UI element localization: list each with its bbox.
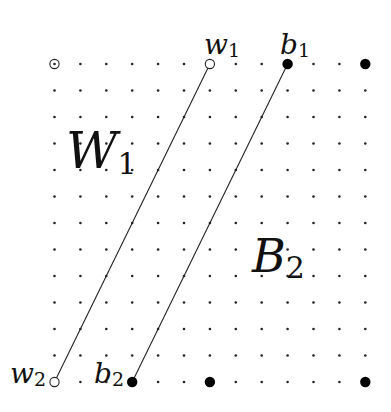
grid-dot — [131, 354, 134, 357]
grid-dot — [131, 63, 134, 66]
grid-dot — [53, 301, 56, 304]
grid-dot — [260, 169, 263, 172]
grid-dot — [105, 116, 108, 119]
grid-dot — [286, 169, 289, 172]
grid-dot — [235, 142, 238, 145]
grid-dot — [183, 63, 186, 66]
grid-dot — [79, 354, 82, 357]
grid-dot — [131, 328, 134, 331]
grid-dot — [364, 116, 367, 119]
grid-dot — [183, 142, 186, 145]
grid-dot — [105, 222, 108, 225]
grid-dot — [338, 248, 341, 251]
grid-dot — [209, 195, 212, 198]
grid-dot — [235, 195, 238, 198]
grid-dot — [260, 381, 263, 384]
grid-dot — [105, 248, 108, 251]
grid-dot — [131, 248, 134, 251]
grid-dot — [312, 116, 315, 119]
grid-dot — [286, 222, 289, 225]
edges — [55, 64, 288, 382]
grid-dot — [79, 248, 82, 251]
grid-dot — [364, 248, 367, 251]
grid-dot — [209, 89, 212, 92]
grid-dot — [53, 89, 56, 92]
grid-dot — [183, 222, 186, 225]
grid-dot — [105, 63, 108, 66]
grid-dot — [235, 381, 238, 384]
grid-dot — [157, 116, 160, 119]
grid-dot — [312, 169, 315, 172]
grid-dot — [79, 301, 82, 304]
grid-dot — [235, 275, 238, 278]
grid-dot — [209, 328, 212, 331]
grid-dot — [338, 301, 341, 304]
grid-dot — [183, 195, 186, 198]
grid-dot — [131, 195, 134, 198]
grid-dot — [364, 354, 367, 357]
center-dot — [53, 63, 56, 66]
grid-dot — [157, 354, 160, 357]
filled-vertex-b2 — [127, 377, 137, 387]
grid-dot — [235, 328, 238, 331]
grid-dot — [209, 275, 212, 278]
grid-dot — [312, 328, 315, 331]
grid-dot — [131, 301, 134, 304]
grid-dot — [364, 142, 367, 145]
grid-dot — [260, 63, 263, 66]
grid-dot — [312, 301, 315, 304]
grid-dot — [209, 248, 212, 251]
grid-dot — [183, 89, 186, 92]
grid-dot — [183, 301, 186, 304]
grid-dot — [131, 142, 134, 145]
grid-dot — [338, 381, 341, 384]
grid-dot — [312, 142, 315, 145]
grid-dot — [260, 301, 263, 304]
grid-dot — [209, 354, 212, 357]
grid-dot — [235, 301, 238, 304]
region-label-B2: B2 — [251, 229, 305, 285]
filled-vertex-top-right-filled — [360, 59, 370, 69]
grid-dot — [235, 222, 238, 225]
label-w1: w1 — [204, 28, 240, 61]
grid-dot — [286, 89, 289, 92]
grid-dot — [286, 301, 289, 304]
grid-dot — [131, 116, 134, 119]
grid-dot — [312, 195, 315, 198]
grid-dot — [157, 222, 160, 225]
grid-dot — [131, 89, 134, 92]
grid-dot — [79, 222, 82, 225]
grid-dot — [183, 354, 186, 357]
grid-dot — [79, 63, 82, 66]
grid-dot — [79, 381, 82, 384]
grid-dot — [312, 354, 315, 357]
grid-dot — [260, 328, 263, 331]
grid-dot — [260, 222, 263, 225]
grid-dot — [312, 248, 315, 251]
filled-vertex-bottom-mid-filled — [205, 377, 215, 387]
grid-dot — [105, 195, 108, 198]
grid-dot — [53, 169, 56, 172]
grid-dot — [312, 63, 315, 66]
grid-dot — [209, 142, 212, 145]
label-b1: b1 — [280, 28, 310, 61]
grid-dot — [183, 328, 186, 331]
grid-dot — [338, 275, 341, 278]
grid-dot — [364, 301, 367, 304]
grid-dot — [235, 354, 238, 357]
grid-dot — [183, 169, 186, 172]
grid-dot — [235, 248, 238, 251]
grid-dot — [338, 116, 341, 119]
hollow-vertex-w2 — [50, 377, 59, 386]
grid-dot — [157, 381, 160, 384]
grid-dot — [53, 328, 56, 331]
grid-dot — [364, 222, 367, 225]
grid-dot — [157, 301, 160, 304]
grid-dot — [364, 195, 367, 198]
grid-dot — [105, 328, 108, 331]
grid-dot — [53, 248, 56, 251]
grid-dot — [209, 301, 212, 304]
grid-dot — [338, 63, 341, 66]
grid-dot — [286, 354, 289, 357]
grid-dot — [209, 169, 212, 172]
